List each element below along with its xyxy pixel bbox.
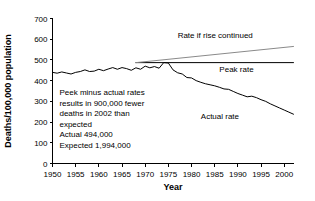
x-tick-label: 2000 xyxy=(275,170,293,179)
series-label-group: Actual ratePeak rateRate if rise continu… xyxy=(178,31,255,121)
y-tick-label: 100 xyxy=(34,139,48,148)
y-tick-label: 600 xyxy=(34,35,48,44)
summary-note: Peek minus actual ratesresults in 900,00… xyxy=(59,88,144,149)
x-axis-title: Year xyxy=(163,182,183,192)
y-axis-title: Deaths/100,000 population xyxy=(3,34,13,148)
x-tick-label: 1980 xyxy=(183,170,201,179)
series-label-peak-rate: Peak rate xyxy=(219,65,254,74)
x-tick-label: 1970 xyxy=(136,170,154,179)
x-tick-group: 1950195519601965197019751980198519901995… xyxy=(44,164,294,179)
y-axis-group: 0100200300400500600700 xyxy=(34,15,52,169)
x-tick-label: 1995 xyxy=(252,170,270,179)
y-tick-label: 0 xyxy=(43,160,48,169)
x-tick-label: 1990 xyxy=(229,170,247,179)
x-tick-label: 1985 xyxy=(206,170,224,179)
x-tick-label: 1950 xyxy=(44,170,62,179)
series-label-actual-rate: Actual rate xyxy=(201,112,240,121)
line-chart: 0100200300400500600700 19501955196019651… xyxy=(0,0,315,201)
annotation-group: Peek minus actual ratesresults in 900,00… xyxy=(59,88,144,149)
y-tick-label: 500 xyxy=(34,56,48,65)
x-tick-label: 1965 xyxy=(113,170,131,179)
series-line-rate-if-rise-continued xyxy=(136,46,294,62)
x-tick-label: 1975 xyxy=(159,170,177,179)
chart-container: 0100200300400500600700 19501955196019651… xyxy=(0,0,315,201)
x-tick-label: 1955 xyxy=(67,170,85,179)
y-tick-group: 0100200300400500600700 xyxy=(34,15,52,169)
x-tick-label: 1960 xyxy=(90,170,108,179)
series-label-rate-if-rise-continued: Rate if rise continued xyxy=(178,31,253,40)
y-tick-label: 700 xyxy=(34,15,48,24)
x-axis-group: 1950195519601965197019751980198519901995… xyxy=(44,164,294,179)
y-tick-label: 200 xyxy=(34,118,48,127)
y-tick-label: 400 xyxy=(34,77,48,86)
y-tick-label: 300 xyxy=(34,97,48,106)
